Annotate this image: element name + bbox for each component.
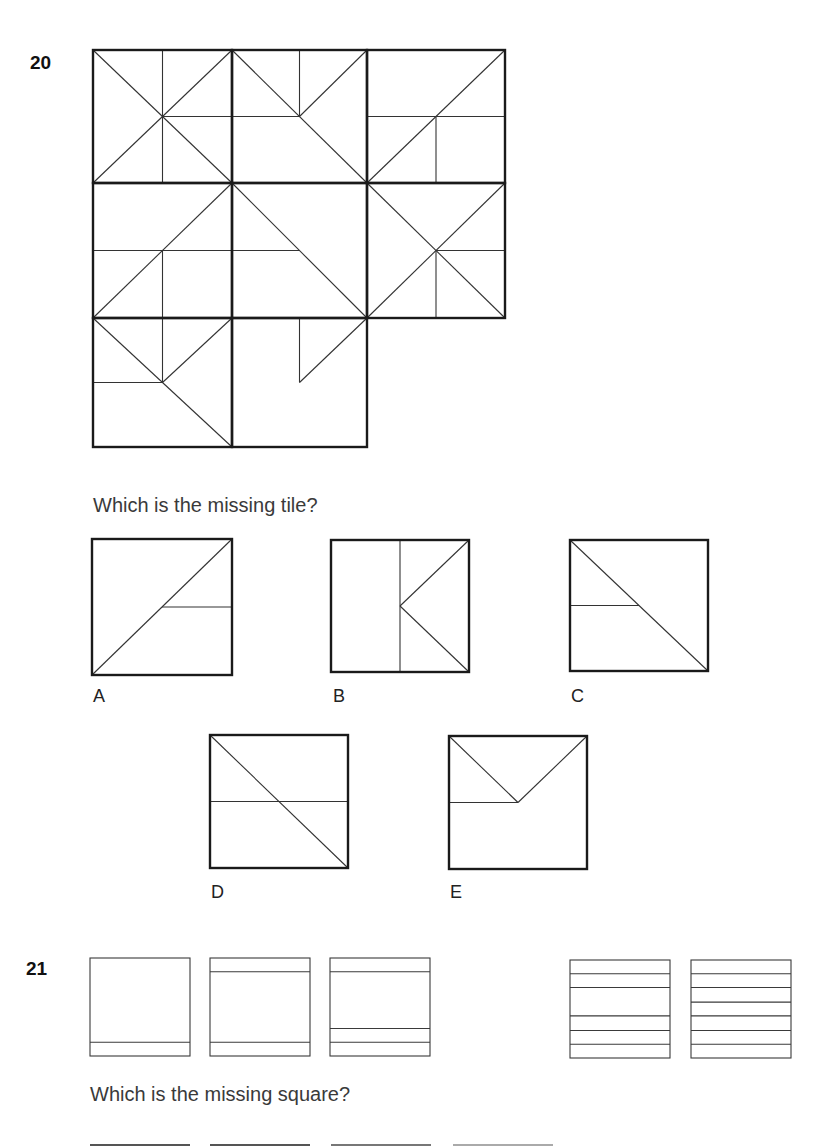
- option-a-tile[interactable]: [92, 539, 232, 675]
- option-b-label: B: [333, 686, 345, 707]
- tile-grid: [93, 50, 513, 450]
- question-21-prompt: Which is the missing square?: [90, 1083, 350, 1106]
- option-c-tile[interactable]: [570, 540, 708, 671]
- option-e-tile[interactable]: [449, 736, 587, 869]
- question-20-prompt: Which is the missing tile?: [93, 494, 318, 517]
- sequence-square-6: [691, 960, 791, 1058]
- sequence-square-5: [570, 960, 670, 1058]
- option-a-label: A: [93, 686, 105, 707]
- sequence-square-2: [210, 958, 310, 1056]
- option-e-label: E: [450, 882, 462, 903]
- sequence-square-1: [90, 958, 190, 1056]
- option-d-tile[interactable]: [210, 735, 348, 868]
- option-d-label: D: [211, 882, 224, 903]
- question-number-20: 20: [30, 52, 51, 74]
- sequence-square-3: [330, 958, 430, 1056]
- option-b-tile[interactable]: [331, 540, 469, 672]
- question-number-21: 21: [26, 958, 47, 980]
- option-c-label: C: [571, 686, 584, 707]
